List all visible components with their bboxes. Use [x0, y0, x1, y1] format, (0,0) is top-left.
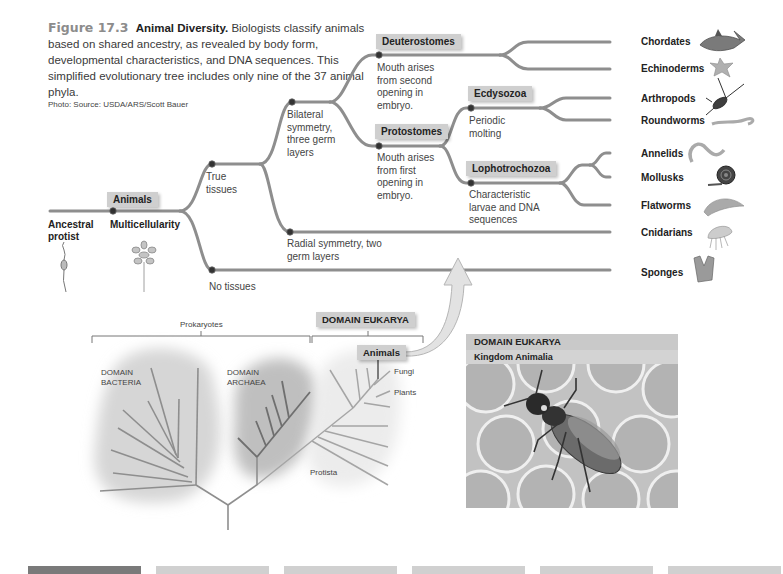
- deuterostomes-tag: Deuterostomes: [376, 34, 461, 49]
- protostomes-tag: Protostomes: [375, 124, 448, 139]
- ecdysozoa-tag: Ecdysozoa: [468, 86, 532, 101]
- phylum-flatworms: Flatworms: [641, 200, 691, 211]
- multicellularity-label: Multicellularity: [110, 219, 180, 231]
- domain-bacteria-label: DOMAIN BACTERIA: [101, 368, 151, 388]
- true-tissues-label: True tissues: [206, 171, 256, 196]
- lophotrochozoa-note: Characteristic larvae and DNA sequences: [469, 189, 549, 227]
- domain-archaea-label: DOMAIN ARCHAEA: [227, 368, 277, 388]
- ecdysozoa-note: Periodic molting: [469, 115, 519, 140]
- plants-label: Plants: [394, 388, 416, 398]
- page-tab-bar-6[interactable]: [668, 566, 781, 574]
- protista-label: Protista: [310, 468, 337, 478]
- phylum-echinoderms: Echinoderms: [641, 63, 704, 74]
- photo-kingdom-subheader: Kingdom Animalia: [466, 350, 678, 364]
- phylum-arthropods: Arthropods: [641, 93, 695, 104]
- phylum-cnidarians: Cnidarians: [641, 227, 693, 238]
- phylum-roundworms: Roundworms: [641, 115, 705, 126]
- page-tab-bar-4[interactable]: [412, 566, 525, 574]
- page-tab-bar-2[interactable]: [156, 566, 269, 574]
- animals-tag: Animals: [107, 192, 158, 207]
- deuterostomes-note: Mouth arises from second opening in embr…: [377, 62, 439, 112]
- page-tab-bar-5[interactable]: [540, 566, 653, 574]
- eukarya-animals-tag: Animals: [357, 345, 406, 360]
- fungi-label: Fungi: [394, 367, 414, 377]
- bilateral-symmetry-label: Bilateral symmetry, three germ layers: [287, 109, 345, 159]
- ancestral-protist-label: Ancestral protist: [48, 219, 108, 243]
- phylum-sponges: Sponges: [641, 267, 683, 278]
- domain-eukarya-tag: DOMAIN EUKARYA: [316, 312, 415, 327]
- phylum-chordates: Chordates: [641, 36, 690, 47]
- phylum-annelids: Annelids: [641, 148, 683, 159]
- page-tab-bar-1[interactable]: [28, 566, 141, 574]
- lophotrochozoa-tag: Lophotrochozoa: [466, 161, 556, 176]
- no-tissues-label: No tissues: [209, 281, 256, 294]
- prokaryotes-label: Prokaryotes: [180, 320, 223, 330]
- radial-symmetry-label: Radial symmetry, two germ layers: [287, 238, 383, 263]
- photo-domain-header: DOMAIN EUKARYA: [466, 334, 678, 350]
- page-tab-bar-3[interactable]: [284, 566, 397, 574]
- protostomes-note: Mouth arises from first opening in embry…: [377, 152, 437, 202]
- phylum-mollusks: Mollusks: [641, 172, 684, 183]
- bee-photo-panel: DOMAIN EUKARYA Kingdom Animalia: [466, 334, 678, 508]
